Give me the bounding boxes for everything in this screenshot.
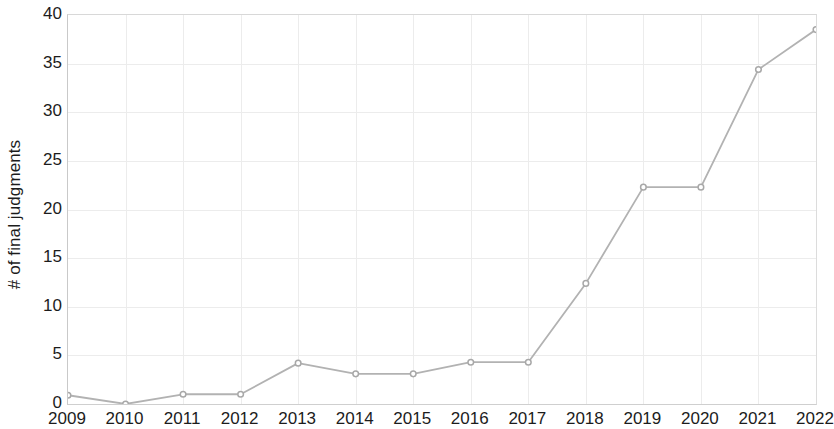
x-tick-label: 2017	[508, 409, 546, 429]
plot-svg	[68, 15, 816, 404]
x-tick-label: 2019	[623, 409, 661, 429]
series-line	[68, 30, 816, 404]
data-point-marker	[526, 359, 532, 365]
data-point-marker	[353, 371, 359, 377]
x-tick-label: 2011	[164, 409, 201, 429]
x-tick-label: 2009	[48, 409, 86, 429]
x-tick-label: 2018	[566, 409, 604, 429]
x-tick-label: 2013	[278, 409, 316, 429]
data-point-marker	[123, 401, 129, 404]
data-point-marker	[698, 184, 704, 190]
data-point-marker	[756, 67, 762, 73]
data-markers	[68, 27, 816, 404]
data-series	[68, 30, 816, 404]
x-tick-label: 2020	[681, 409, 719, 429]
data-point-marker	[641, 184, 647, 190]
data-point-marker	[813, 27, 816, 33]
data-point-marker	[410, 371, 416, 377]
x-tick-label: 2016	[451, 409, 489, 429]
data-point-marker	[295, 360, 301, 366]
x-tick-label: 2012	[221, 409, 259, 429]
gridlines	[68, 15, 816, 404]
data-point-marker	[238, 391, 244, 397]
x-tick-label: 2022	[796, 409, 834, 429]
x-tick-label: 2015	[393, 409, 431, 429]
data-point-marker	[583, 281, 589, 287]
x-tick-label: 2021	[739, 409, 777, 429]
data-point-marker	[468, 359, 474, 365]
data-point-marker	[68, 392, 71, 398]
data-point-marker	[180, 391, 186, 397]
x-tick-label: 2010	[106, 409, 144, 429]
x-tick-label: 2014	[336, 409, 374, 429]
plot-area	[67, 14, 817, 405]
